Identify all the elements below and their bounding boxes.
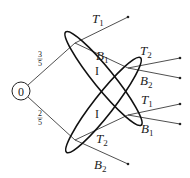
edge-root-upper (28, 43, 75, 85)
edge-root-lower (28, 97, 75, 140)
probability-lower: 2 5 (38, 109, 43, 127)
terminal-nodes (127, 16, 182, 166)
action-line-midlower-B1 (128, 115, 180, 124)
information-set-label-2: I (95, 107, 99, 121)
label-B2-lower: B2 (94, 157, 106, 174)
probability-upper: 3 5 (38, 50, 43, 68)
svg-text:5: 5 (38, 118, 42, 127)
label-T2-midupper: T2 (140, 43, 152, 60)
information-set-ellipse-1 (58, 26, 149, 132)
label-B1-upper: B1 (96, 48, 108, 65)
terminal-dot (179, 77, 182, 80)
terminal-dot (179, 103, 182, 106)
label-B2-midupper: B2 (140, 73, 152, 90)
action-line-midupper-T2 (128, 58, 180, 68)
label-T1-upper: T1 (92, 11, 104, 28)
label-T1-midlower: T1 (141, 92, 153, 109)
svg-text:2: 2 (38, 109, 42, 118)
terminal-dot (127, 16, 130, 19)
label-T2-lower: T2 (96, 131, 108, 148)
terminal-dot (179, 123, 182, 126)
terminal-dot (179, 57, 182, 60)
svg-text:5: 5 (38, 59, 42, 68)
game-tree-diagram: 0 3 5 2 5 T1 B1 T2 B2 T1 B1 T2 B2 I I (0, 0, 190, 178)
root-label: 0 (18, 85, 24, 99)
terminal-dot (127, 163, 130, 166)
label-B1-midlower: B1 (141, 121, 153, 138)
action-lines (75, 17, 180, 164)
svg-text:3: 3 (38, 50, 42, 59)
information-set-label-1: I (95, 64, 99, 78)
action-line-midupper-B2 (128, 68, 180, 78)
